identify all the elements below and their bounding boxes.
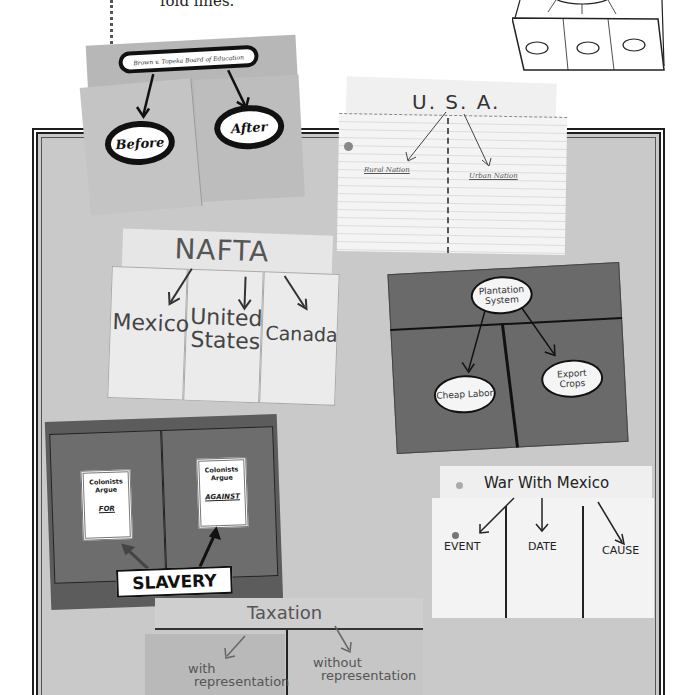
foldable-usa: U. S. A. Rural Nation Urban Nation [338, 80, 568, 255]
lined-paper-flap [337, 113, 567, 255]
united-states-label: United States [189, 305, 263, 354]
foldable-plantation-system: Plantation System Cheap Labor Export Cro… [387, 262, 628, 454]
nafta-title: NAFTA [174, 232, 270, 268]
rural-nation-label: Rural Nation [364, 166, 410, 174]
taxation-title: Taxation [247, 602, 322, 623]
foldable-taxation: Taxation with representation without rep… [155, 598, 423, 695]
punch-hole [452, 532, 459, 539]
date-column-label: DATE [528, 540, 557, 553]
without-representation-label: without representation [313, 656, 416, 682]
card-line-2: Argue [95, 485, 117, 494]
colonists-argue-for-card: Colonists Argue FOR [81, 469, 133, 541]
punch-hole [344, 142, 353, 151]
column-divider [582, 506, 584, 618]
fold-line [155, 628, 423, 630]
war-title: War With Mexico [484, 474, 609, 492]
label-line-2: representation [194, 674, 289, 689]
cause-column-label: CAUSE [602, 544, 639, 557]
with-representation-label: with representation [188, 662, 289, 688]
usa-title: U. S. A. [412, 90, 500, 114]
foldable-war-with-mexico: War With Mexico EVENT DATE CAUSE [432, 458, 654, 618]
diagram-illustration [512, 0, 672, 75]
punch-hole [456, 482, 463, 489]
urban-nation-label: Urban Nation [469, 172, 518, 180]
fold-line [447, 118, 449, 253]
mexico-label: Mexico [112, 310, 191, 336]
label-line-2: representation [321, 668, 416, 683]
foldable-nafta: NAFTA Mexico United States Canada [107, 228, 343, 414]
foldable-slavery: Colonists Argue FOR Colonists Argue AGAI… [45, 414, 283, 610]
column-divider [505, 506, 507, 618]
caption-text: fold lines. [160, 0, 234, 10]
three-tab-foldable-diagram [512, 0, 672, 75]
event-column-label: EVENT [444, 540, 480, 553]
colonists-argue-against-card: Colonists Argue AGAINST [196, 457, 248, 529]
card-emphasis: FOR [85, 504, 129, 514]
canada-label: Canada [263, 323, 340, 346]
card-line-2: Argue [211, 473, 233, 482]
slavery-label: SLAVERY [116, 566, 233, 598]
paper-flap [432, 498, 654, 618]
foldable-brown-v-board: Brown v. Topeka Board of Education Befor… [82, 34, 311, 215]
card-emphasis: AGAINST [200, 492, 244, 502]
